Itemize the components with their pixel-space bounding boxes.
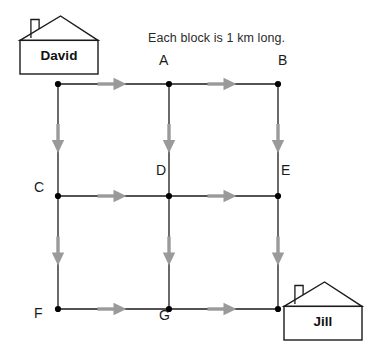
house-david <box>20 16 98 74</box>
intersection-dot-A <box>166 81 172 87</box>
intersection-dot-F <box>55 306 61 312</box>
arrow-e-col1-lower <box>52 237 64 266</box>
intersection-dot-E <box>275 193 281 199</box>
node-label-A: A <box>159 52 168 68</box>
intersection-dot-D <box>166 193 172 199</box>
arrow-e-bottom-left <box>98 303 127 315</box>
house-label-jill: Jill <box>284 314 362 329</box>
arrow-e-bottom-right <box>208 303 237 315</box>
node-label-E: E <box>281 162 290 178</box>
arrow-e-mid-right <box>208 190 237 202</box>
house-shapes <box>20 16 362 340</box>
intersection-dot-B <box>275 81 281 87</box>
node-label-D: D <box>156 162 166 178</box>
grid-map-figure: Each block is 1 km long. ABCDEFG DavidJi… <box>0 0 376 349</box>
intersection-dot-n8 <box>275 306 281 312</box>
arrow-e-mid-left <box>98 190 127 202</box>
house-jill <box>284 282 362 340</box>
node-label-B: B <box>278 52 287 68</box>
arrow-e-col3-lower <box>272 237 284 266</box>
arrow-e-top-left <box>98 78 127 90</box>
node-label-G: G <box>159 307 170 323</box>
arrow-e-col2-lower <box>163 237 175 266</box>
node-label-C: C <box>34 179 44 195</box>
house-label-david: David <box>20 48 98 63</box>
node-label-F: F <box>34 305 43 321</box>
arrow-e-col3-upper <box>272 124 284 153</box>
intersection-dot-C <box>55 193 61 199</box>
arrow-e-col1-upper <box>52 124 64 153</box>
intersection-dot-n0 <box>55 81 61 87</box>
arrow-e-col2-upper <box>163 124 175 153</box>
caption-text: Each block is 1 km long. <box>148 31 285 45</box>
arrow-e-top-right <box>208 78 237 90</box>
